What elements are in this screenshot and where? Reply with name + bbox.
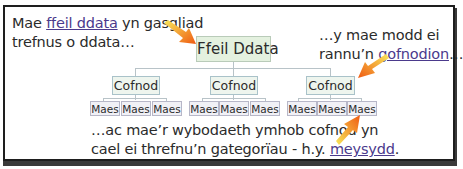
connector-right-down [330,68,331,76]
arrow-icon-to-field [336,114,366,148]
record-node-3: Cofnod [306,76,355,95]
annotation-text: … [449,46,463,62]
annotation-text: Mae [12,15,46,31]
annotation-text: cael ei threfnu’n gategorïau - h.y. [91,141,330,157]
connector-rec3-horizontal [298,98,362,99]
field-node: Maes [121,101,151,116]
connector-mid-down [233,62,234,76]
field-node: Maes [287,101,317,116]
annotation-records-definition: …y mae modd ei rannu’n gofnodion… [319,26,463,64]
field-node: Maes [152,101,182,116]
connector-rec2-horizontal [202,98,266,99]
annotation-text: . [395,141,399,157]
connector-rec1-horizontal [103,98,167,99]
record-node-2: Cofnod [210,76,258,95]
field-node: Maes [250,101,280,116]
arrow-icon-to-root [162,20,202,48]
frame-shadow-bottom [3,161,457,166]
field-node: Maes [189,101,219,116]
annotation-text: trefnus o ddata… [12,34,135,50]
arrow-icon-to-record [356,54,390,80]
annotation-text: …y mae modd ei [319,27,439,43]
connector-left-down [135,68,136,76]
field-node: Maes [90,101,120,116]
root-node-ffeil-ddata: Ffeil Ddata [196,36,271,62]
record-node-1: Cofnod [112,76,160,95]
link-ffeil-ddata[interactable]: ffeil ddata [46,15,117,31]
field-node: Maes [219,101,249,116]
